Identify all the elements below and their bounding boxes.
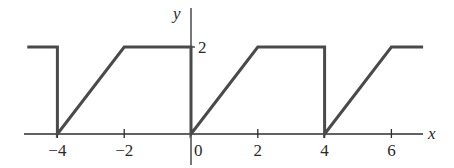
function-curve xyxy=(27,47,423,134)
x-tick-label: 4 xyxy=(320,141,329,160)
x-tick-label: −4 xyxy=(48,141,67,160)
x-axis-label: x xyxy=(427,124,436,143)
x-tick-label: 2 xyxy=(254,141,263,160)
y-axis-label: y xyxy=(171,4,181,23)
x-tick-label: 6 xyxy=(387,141,396,160)
y-tick-label: 2 xyxy=(198,38,207,57)
x-tick-label: −2 xyxy=(115,141,133,160)
function-graph: x y −4−20246 2 xyxy=(0,0,454,168)
x-tick-label: 0 xyxy=(194,141,203,160)
